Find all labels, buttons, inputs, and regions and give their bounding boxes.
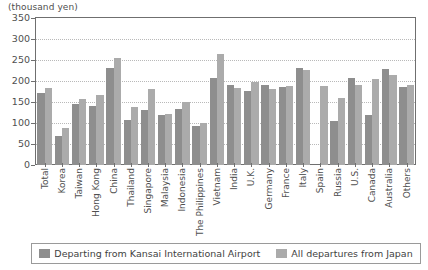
bar-2 [320, 86, 327, 165]
x-axis-tick-label: Indonesia [178, 168, 187, 212]
x-axis-tick-mark [407, 163, 408, 167]
x-axis-tick-mark [269, 163, 270, 167]
y-axis-tick-label: 150 [12, 97, 30, 107]
bar-1 [330, 121, 337, 165]
bar-2 [234, 88, 241, 165]
legend-item: Departing from Kansai International Airp… [39, 248, 260, 259]
x-axis-label-cell: Canada [363, 167, 380, 223]
bar-2 [269, 89, 276, 165]
y-axis-tick-label: 300 [12, 34, 30, 44]
bar-2 [62, 128, 69, 165]
x-axis-label-cell: Spain [312, 167, 329, 223]
y-axis-tick-mark [31, 18, 35, 19]
bar-2 [372, 79, 379, 165]
bar-2 [131, 107, 138, 165]
bar-2 [407, 85, 414, 165]
chart-legend: Departing from Kansai International Airp… [31, 243, 421, 264]
x-axis-tick-label: Singapore [144, 168, 153, 213]
bar-2 [355, 85, 362, 165]
x-axis-tick-label: China [109, 168, 118, 194]
bar-2 [286, 86, 293, 165]
bar-1 [124, 120, 131, 165]
x-axis-label-cell: Vietnam [208, 167, 225, 223]
x-axis-tick-label: Russia [333, 168, 342, 197]
x-axis-tick-mark [148, 163, 149, 167]
x-axis-tick-label: Canada [368, 168, 377, 202]
bar-group [174, 18, 191, 165]
x-axis-labels: TotalKoreaTaiwanHong KongChinaThailandSi… [36, 167, 415, 223]
x-axis-tick-label: Taiwan [75, 168, 84, 199]
x-axis-tick-mark [355, 163, 356, 167]
bar-group [122, 18, 139, 165]
x-axis-tick-mark [182, 163, 183, 167]
x-axis-tick-mark [131, 163, 132, 167]
y-axis-tick-mark [31, 165, 35, 166]
bar-group [277, 18, 294, 165]
x-axis-label-cell: U.S. [346, 167, 363, 223]
x-axis-tick-label: Total [40, 168, 49, 189]
y-axis-unit-label: (thousand yen) [8, 2, 78, 12]
legend-label: All departures from Japan [291, 248, 412, 259]
x-axis-label-cell: Thailand [122, 167, 139, 223]
bar-group [260, 18, 277, 165]
bar-1 [141, 110, 148, 165]
bar-2 [251, 82, 258, 165]
bar-2 [79, 99, 86, 165]
y-axis-tick-mark [31, 60, 35, 61]
x-axis-tick-label: Vietnam [212, 168, 221, 206]
bar-2 [114, 58, 121, 165]
y-axis-tick-mark [31, 123, 35, 124]
x-axis-tick-label: Australia [385, 168, 394, 208]
x-axis-label-cell: Malaysia [157, 167, 174, 223]
x-axis-tick-label: U.S. [350, 168, 359, 186]
bar-1 [175, 109, 182, 165]
x-axis-label-cell: Germany [260, 167, 277, 223]
x-axis-label-cell: Others [398, 167, 415, 223]
y-axis-tick-label: 100 [12, 118, 30, 128]
x-axis-label-cell: Australia [381, 167, 398, 223]
chart-container: (thousand yen) 050100150200250300350 Tot… [0, 0, 428, 270]
bar-1 [227, 85, 234, 165]
bar-2 [182, 102, 189, 165]
bar-1 [89, 106, 96, 165]
x-axis-label-cell: France [277, 167, 294, 223]
x-axis-tick-label: The Philippines [195, 168, 204, 236]
bar-2 [303, 70, 310, 165]
bar-group [226, 18, 243, 165]
y-axis-tick-label: 350 [12, 13, 30, 23]
bar-1 [192, 126, 199, 165]
x-axis-label-cell: Hong Kong [88, 167, 105, 223]
y-axis-tick-label: 200 [12, 76, 30, 86]
x-axis-tick-label: Germany [264, 168, 273, 209]
y-axis-tick-mark [31, 144, 35, 145]
bar-group [381, 18, 398, 165]
y-axis: 050100150200250300350 [0, 17, 33, 166]
bar-group [295, 18, 312, 165]
bar-1 [55, 136, 62, 165]
bar-group [329, 18, 346, 165]
bar-1 [348, 78, 355, 165]
bar-2 [45, 88, 52, 165]
x-axis-tick-mark [389, 163, 390, 167]
y-axis-tick-label: 250 [12, 55, 30, 65]
bar-1 [399, 87, 406, 165]
x-axis-tick-label: France [281, 168, 290, 198]
x-axis-tick-mark [165, 163, 166, 167]
y-axis-tick-label: 0 [24, 160, 30, 170]
x-axis-label-cell: Korea [53, 167, 70, 223]
bar-1 [72, 104, 79, 165]
bar-group [363, 18, 380, 165]
x-axis-tick-mark [96, 163, 97, 167]
x-axis-label-cell: Singapore [139, 167, 156, 223]
bar-group [53, 18, 70, 165]
x-axis-label-cell: Russia [329, 167, 346, 223]
legend-label: Departing from Kansai International Airp… [54, 248, 260, 259]
x-axis-tick-mark [338, 163, 339, 167]
bar-group [346, 18, 363, 165]
series-2-swatch [276, 249, 287, 258]
bar-group [157, 18, 174, 165]
bar-group [191, 18, 208, 165]
x-axis-tick-mark [320, 163, 321, 167]
x-axis-tick-mark [114, 163, 115, 167]
x-axis-tick-mark [372, 163, 373, 167]
